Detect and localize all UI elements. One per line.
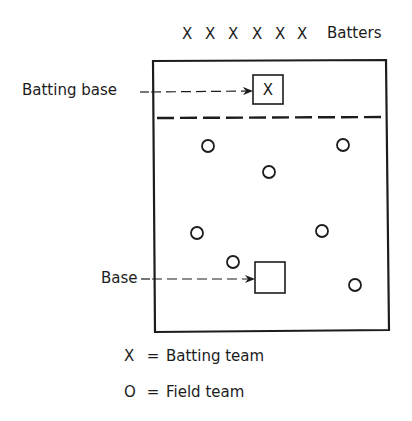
- legend-equals: =: [140, 349, 166, 364]
- field-player: [227, 256, 239, 268]
- batter-symbol: X: [297, 27, 307, 42]
- batting-base-label: Batting base: [22, 83, 117, 98]
- legend-meaning: Batting team: [166, 347, 264, 365]
- batter-symbol: X: [182, 27, 192, 42]
- batting-base-batter: X: [253, 75, 283, 104]
- field-players: [191, 139, 361, 291]
- legend-meaning: Field team: [166, 383, 244, 401]
- batter-symbol: X: [252, 27, 262, 42]
- field-player: [349, 279, 361, 291]
- batter-symbol: X: [275, 27, 285, 42]
- legend-symbol: X: [124, 349, 140, 364]
- base-box: [255, 262, 285, 293]
- batter-symbol: X: [205, 27, 215, 42]
- field-player: [202, 140, 214, 152]
- field-player: [316, 225, 328, 237]
- field-player: [263, 166, 275, 178]
- field-player: [191, 227, 203, 239]
- batting-line: [157, 117, 384, 118]
- legend-equals: =: [140, 385, 166, 400]
- legend-batting-team: X=Batting team: [124, 349, 264, 364]
- batters-label: Batters: [327, 26, 381, 41]
- legend-field-team: O=Field team: [124, 385, 244, 400]
- batter-symbol: X: [228, 27, 238, 42]
- field-player: [337, 139, 349, 151]
- legend-symbol: O: [124, 385, 140, 400]
- base-label: Base: [101, 271, 138, 286]
- batting-base-arrow: [151, 91, 252, 92]
- diagram-canvas: X X X X X X Batters Batting base Base X …: [0, 0, 412, 421]
